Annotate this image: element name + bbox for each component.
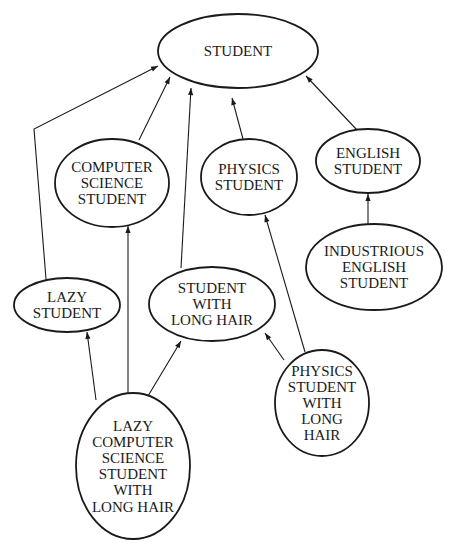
node-label-line: STUDENT	[204, 43, 272, 59]
node-label-line: COMPUTER	[92, 434, 174, 450]
node-label-line: PHYSICS	[291, 363, 353, 379]
node-label-line: STUDENT	[99, 466, 167, 482]
edge-line	[181, 88, 191, 268]
node-label-line: STUDENT	[288, 379, 356, 395]
edge-line	[139, 77, 170, 140]
edge-english-student-to-student	[306, 76, 357, 130]
node-label-line: SCIENCE	[81, 175, 144, 191]
node-lazy-student: LAZYSTUDENT	[14, 278, 120, 332]
node-student-long-hair: STUDENTWITHLONG HAIR	[149, 267, 275, 341]
node-label-line: STUDENT	[178, 280, 246, 296]
node-label-line: STUDENT	[78, 191, 146, 207]
node-label-line: INDUSTRIOUS	[324, 243, 424, 259]
node-industrious-english-student: INDUSTRIOUSENGLISHSTUDENT	[306, 224, 442, 310]
edge-line	[148, 341, 181, 396]
arrowhead-icon	[231, 98, 236, 105]
node-label-line: ENGLISH	[336, 145, 400, 161]
arrowhead-icon	[264, 215, 269, 222]
edge-physics-student-to-student	[231, 98, 243, 139]
edge-physics-student-long-hair-to-student-long-hair	[265, 333, 284, 360]
class-hierarchy-diagram: STUDENTCOMPUTERSCIENCESTUDENTPHYSICSSTUD…	[0, 0, 452, 550]
node-label-line: LONG HAIR	[171, 312, 253, 328]
edge-lazy-cs-student-long-hair-to-cs-student	[125, 226, 130, 393]
node-cs-student: COMPUTERSCIENCESTUDENT	[55, 139, 169, 227]
edge-line	[87, 332, 96, 400]
node-label-line: STUDENT	[340, 275, 408, 291]
arrowhead-icon	[125, 226, 130, 233]
node-english-student: ENGLISHSTUDENT	[316, 129, 420, 193]
arrowhead-icon	[188, 88, 193, 95]
edge-line	[265, 215, 305, 352]
edge-industrious-english-student-to-english-student	[365, 194, 370, 225]
node-label-line: WITH	[302, 395, 341, 411]
arrowhead-icon	[165, 77, 170, 84]
node-physics-student: PHYSICSSTUDENT	[201, 139, 297, 215]
edge-line	[306, 76, 357, 130]
arrowhead-icon	[175, 341, 181, 348]
node-label-line: LONG HAIR	[92, 499, 174, 515]
edge-cs-student-to-student	[139, 77, 170, 140]
arrowhead-icon	[151, 66, 158, 71]
node-lazy-cs-student-long-hair: LAZYCOMPUTERSCIENCESTUDENTWITHLONG HAIR	[76, 393, 190, 539]
node-label-line: WITH	[113, 482, 152, 498]
edge-lazy-cs-student-long-hair-to-lazy-student	[85, 332, 96, 400]
node-label-line: STUDENT	[33, 305, 101, 321]
node-label-line: LAZY	[113, 418, 153, 434]
node-label-line: LAZY	[47, 289, 87, 305]
arrowhead-icon	[85, 332, 90, 339]
edge-lazy-cs-student-long-hair-to-student-long-hair	[148, 341, 181, 396]
nodes-layer: STUDENTCOMPUTERSCIENCESTUDENTPHYSICSSTUD…	[14, 14, 442, 539]
node-label-line: STUDENT	[334, 161, 402, 177]
node-student: STUDENT	[158, 14, 318, 88]
node-label-line: PHYSICS	[218, 161, 280, 177]
node-label-line: SCIENCE	[102, 450, 165, 466]
node-label-line: WITH	[192, 296, 231, 312]
node-physics-student-long-hair: PHYSICSSTUDENTWITHLONGHAIR	[275, 350, 369, 456]
arrowhead-icon	[265, 333, 271, 340]
node-label-line: HAIR	[304, 427, 341, 443]
node-label-line: ENGLISH	[342, 259, 406, 275]
edge-physics-student-long-hair-to-physics-student	[264, 215, 305, 352]
arrowhead-icon	[365, 194, 370, 201]
node-label-line: LONG	[301, 411, 343, 427]
node-label-line: STUDENT	[215, 177, 283, 193]
edge-student-long-hair-to-student	[181, 88, 193, 268]
node-label-line: COMPUTER	[71, 159, 153, 175]
